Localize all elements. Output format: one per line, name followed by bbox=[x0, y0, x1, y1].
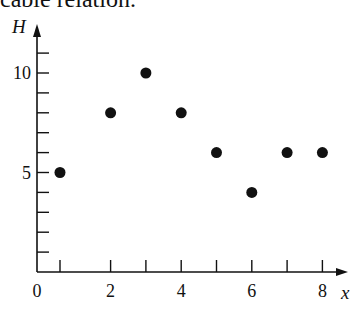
scatter-chart: 02468510xH bbox=[0, 0, 357, 310]
data-point bbox=[282, 147, 293, 158]
y-axis-arrow-icon bbox=[33, 24, 41, 37]
x-tick-label: 2 bbox=[106, 281, 115, 301]
x-tick-label: 0 bbox=[33, 281, 42, 301]
data-point bbox=[246, 187, 257, 198]
data-point bbox=[317, 147, 328, 158]
x-axis-arrow-icon bbox=[336, 268, 348, 276]
y-tick-label: 5 bbox=[22, 163, 31, 183]
y-tick-label: 10 bbox=[13, 63, 31, 83]
data-point bbox=[176, 107, 187, 118]
data-point bbox=[105, 107, 116, 118]
x-tick-label: 6 bbox=[247, 281, 256, 301]
x-tick-label: 8 bbox=[318, 281, 327, 301]
data-point bbox=[140, 68, 151, 79]
data-point bbox=[211, 147, 222, 158]
x-tick-label: 4 bbox=[177, 281, 186, 301]
x-axis-label: x bbox=[340, 282, 350, 303]
data-point bbox=[55, 167, 66, 178]
y-axis-label: H bbox=[11, 16, 27, 37]
